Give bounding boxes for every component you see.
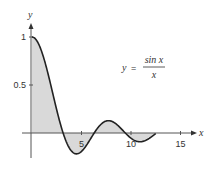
shaded-area — [32, 37, 156, 154]
y-tick-label: 0.5 — [13, 80, 26, 90]
sinc-chart: 510150.51 x y y = sin x x — [0, 0, 209, 170]
x-axis-arrow-icon — [191, 131, 197, 136]
annotation-lhs: y — [121, 62, 127, 73]
annotation-numerator: sin x — [145, 54, 164, 65]
x-tick-label: 5 — [79, 139, 84, 149]
x-tick-label: 15 — [175, 139, 185, 149]
x-axis-label: x — [198, 127, 204, 138]
y-axis-arrow-icon — [29, 23, 34, 29]
function-annotation: y = sin x x — [121, 54, 165, 80]
y-tick-label: 1 — [21, 32, 26, 42]
annotation-equals: = — [131, 63, 136, 73]
y-axis-label: y — [27, 9, 33, 20]
annotation-denominator: x — [151, 69, 157, 80]
